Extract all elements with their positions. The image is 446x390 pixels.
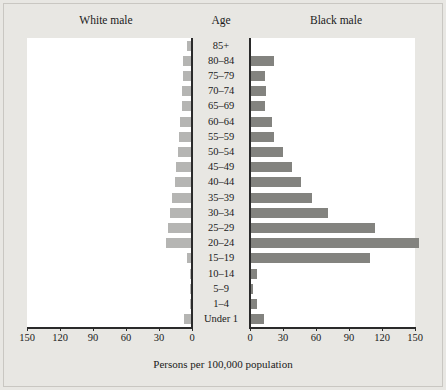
- bar-row: 70–74: [27, 84, 415, 99]
- chart-page: White male Age Black male 85+80–8475–797…: [0, 0, 446, 390]
- bar-black-male: [251, 71, 265, 81]
- bar-black-male: [251, 147, 283, 157]
- bar-black-male: [251, 177, 301, 187]
- bar-white-male: [178, 147, 191, 157]
- bar-white-male: [182, 86, 191, 96]
- axis-tick: [382, 327, 383, 331]
- bar-black-male: [251, 56, 274, 66]
- age-group-label: 80–84: [192, 54, 250, 68]
- age-group-label: 65–69: [192, 99, 250, 113]
- axis-tick-label: 30: [278, 332, 289, 343]
- bar-rows: 85+80–8475–7970–7465–6960–6455–5950–5445…: [27, 38, 415, 327]
- bar-white-male: [184, 314, 191, 324]
- bar-black-male: [251, 162, 292, 172]
- age-group-label: Under 1: [192, 312, 250, 326]
- axis-tick: [316, 327, 317, 331]
- bar-black-male: [251, 223, 375, 233]
- bar-black-male: [251, 208, 328, 218]
- bar-black-male: [251, 284, 253, 294]
- axis-rule-left: [27, 327, 192, 329]
- bar-white-male: [190, 269, 191, 279]
- bar-row: 55–59: [27, 129, 415, 144]
- age-group-label: 25–29: [192, 221, 250, 235]
- bar-row: Under 1: [27, 312, 415, 327]
- bar-white-male: [183, 71, 191, 81]
- axis-rule-right: [249, 327, 415, 329]
- bar-row: 85+: [27, 38, 415, 53]
- bar-black-male: [251, 238, 419, 248]
- bar-white-male: [190, 299, 191, 309]
- bar-row: 10–14: [27, 266, 415, 281]
- bar-black-male: [251, 314, 264, 324]
- bar-row: 20–24: [27, 236, 415, 251]
- axis-tick: [159, 327, 160, 331]
- age-group-label: 1–4: [192, 297, 250, 311]
- axis-tick: [27, 327, 28, 331]
- bar-white-male: [180, 117, 191, 127]
- age-group-label: 70–74: [192, 84, 250, 98]
- bar-black-male: [251, 117, 272, 127]
- axis-tick-label: 150: [407, 332, 423, 343]
- axis-tick-label: 0: [247, 332, 252, 343]
- axis-tick: [192, 327, 193, 331]
- bar-white-male: [170, 208, 191, 218]
- bar-black-male: [251, 132, 274, 142]
- x-axis-label: Persons per 100,000 population: [0, 358, 446, 370]
- axis-tick-label: 150: [19, 332, 35, 343]
- bar-white-male: [190, 284, 191, 294]
- age-group-label: 55–59: [192, 130, 250, 144]
- header-black-male: Black male: [250, 14, 422, 26]
- bar-white-male: [187, 41, 191, 51]
- bar-row: 75–79: [27, 68, 415, 83]
- bar-white-male: [172, 193, 191, 203]
- axis-tick: [126, 327, 127, 331]
- age-group-label: 40–44: [192, 175, 250, 189]
- axis-tick: [250, 327, 251, 331]
- header-age: Age: [192, 14, 250, 26]
- bar-black-male: [251, 299, 257, 309]
- bar-white-male: [179, 132, 191, 142]
- axis-tick-label: 60: [311, 332, 322, 343]
- bar-row: 45–49: [27, 160, 415, 175]
- axis-tick-label: 90: [344, 332, 355, 343]
- bar-row: 1–4: [27, 296, 415, 311]
- axis-tick: [349, 327, 350, 331]
- bar-black-male: [251, 193, 312, 203]
- age-group-label: 10–14: [192, 267, 250, 281]
- age-group-label: 30–34: [192, 206, 250, 220]
- age-group-label: 50–54: [192, 145, 250, 159]
- x-axis: 15012090603000306090120150: [27, 327, 415, 353]
- axis-tick-label: 30: [154, 332, 165, 343]
- bar-row: 50–54: [27, 144, 415, 159]
- axis-tick-label: 90: [88, 332, 99, 343]
- bar-black-male: [251, 253, 370, 263]
- bar-black-male: [251, 86, 266, 96]
- bar-white-male: [175, 177, 192, 187]
- plot-area: 85+80–8475–7970–7465–6960–6455–5950–5445…: [27, 38, 415, 327]
- bar-row: 80–84: [27, 53, 415, 68]
- axis-tick-label: 60: [121, 332, 132, 343]
- chart-header: White male Age Black male: [0, 14, 446, 32]
- age-group-label: 60–64: [192, 115, 250, 129]
- bar-white-male: [183, 56, 191, 66]
- age-group-label: 20–24: [192, 236, 250, 250]
- age-group-label: 85+: [192, 39, 250, 53]
- bar-white-male: [187, 253, 191, 263]
- age-group-label: 15–19: [192, 251, 250, 265]
- bar-row: 25–29: [27, 220, 415, 235]
- axis-tick-label: 0: [189, 332, 194, 343]
- age-group-label: 35–39: [192, 191, 250, 205]
- bar-row: 65–69: [27, 99, 415, 114]
- bar-white-male: [166, 238, 191, 248]
- bar-row: 60–64: [27, 114, 415, 129]
- age-group-label: 5–9: [192, 282, 250, 296]
- axis-tick: [283, 327, 284, 331]
- bar-row: 40–44: [27, 175, 415, 190]
- age-group-label: 75–79: [192, 69, 250, 83]
- axis-tick: [415, 327, 416, 331]
- bar-row: 15–19: [27, 251, 415, 266]
- bar-white-male: [176, 162, 191, 172]
- axis-tick-label: 120: [374, 332, 390, 343]
- age-group-label: 45–49: [192, 160, 250, 174]
- bar-black-male: [251, 101, 265, 111]
